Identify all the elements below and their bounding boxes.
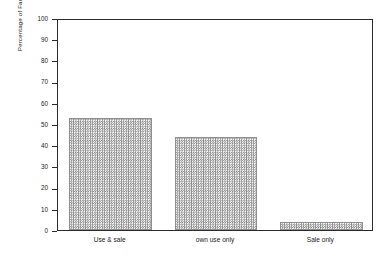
y-axis-tick <box>52 231 57 232</box>
y-axis-tick-label: 20 <box>8 185 48 191</box>
plot-frame <box>57 19 373 231</box>
y-axis-tick-label: 90 <box>8 37 48 43</box>
y-axis-tick-label: 10 <box>8 207 48 213</box>
x-axis-category-label: Use & sale <box>60 236 160 244</box>
y-axis-tick-label: 0 <box>8 228 48 234</box>
y-axis-tick-label: 100 <box>8 16 48 22</box>
y-axis-tick-label: 50 <box>8 122 48 128</box>
x-axis-category-label: own use only <box>165 236 265 244</box>
y-axis-tick-label: 80 <box>8 58 48 64</box>
y-axis-tick-label: 40 <box>8 143 48 149</box>
bar-use-sale <box>69 118 152 230</box>
bar-sale-only <box>280 222 363 230</box>
plot-area <box>58 20 372 230</box>
y-axis-tick-label: 70 <box>8 79 48 85</box>
bar-chart-figure: Percentage of Farmers 010203040506070809… <box>0 0 388 261</box>
x-axis-category-label: Sale only <box>270 236 370 244</box>
y-axis-tick-label: 60 <box>8 101 48 107</box>
y-axis-tick-label: 30 <box>8 164 48 170</box>
bar-own-use-only <box>175 137 258 230</box>
